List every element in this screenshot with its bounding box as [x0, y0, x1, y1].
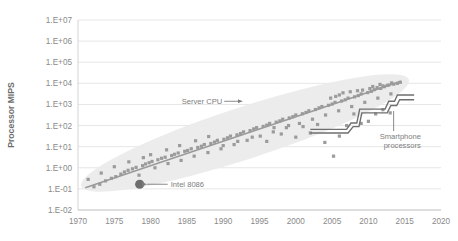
y-axis-tick-label: 1.E-01: [48, 185, 73, 194]
scatter-point: [287, 124, 290, 127]
scatter-point: [186, 149, 189, 152]
y-axis-title: Processor MIPS: [6, 82, 16, 148]
scatter-point: [350, 105, 353, 108]
intel-8086-highlight-dot: [135, 180, 144, 189]
scatter-point: [298, 122, 301, 125]
y-axis-tick-label: 1.E+06: [46, 37, 73, 46]
y-axis-tick-label: 1.E+07: [46, 16, 73, 25]
x-axis-tick-label: 1980: [141, 217, 160, 226]
x-axis-tick-labels: 1970197519801985199019952000200520102015…: [69, 217, 451, 226]
scatter-point: [301, 125, 304, 128]
scatter-point: [216, 139, 219, 142]
scatter-point: [251, 136, 254, 139]
scatter-point: [156, 158, 159, 161]
scatter-point: [178, 144, 181, 147]
processor-mips-chart: 1.E+071.E+061.E+051.E+041.E+031.E+021.E+…: [0, 0, 458, 241]
scatter-point: [131, 167, 134, 170]
scatter-point: [190, 147, 193, 150]
scatter-point: [338, 93, 341, 96]
scatter-point: [329, 97, 332, 100]
scatter-point: [207, 135, 210, 138]
scatter-point: [236, 140, 239, 143]
y-axis-tick-label: 1.E+03: [46, 100, 73, 109]
x-axis-tick-label: 1985: [178, 217, 197, 226]
scatter-point: [311, 118, 314, 121]
scatter-point: [259, 135, 262, 138]
chart-canvas: 1.E+071.E+061.E+051.E+041.E+031.E+021.E+…: [0, 0, 458, 241]
scatter-point: [338, 135, 341, 138]
x-axis-tick-label: 2020: [432, 217, 451, 226]
smartphone-label-line1: Smartphone: [380, 132, 421, 141]
scatter-point: [150, 160, 153, 163]
scatter-point: [272, 126, 275, 129]
scatter-point: [316, 123, 319, 126]
scatter-point: [144, 162, 147, 165]
scatter-point: [165, 148, 168, 151]
scatter-point: [376, 97, 379, 100]
scatter-point: [332, 155, 335, 158]
scatter-point: [126, 169, 129, 172]
scatter-point: [200, 145, 203, 148]
scatter-point: [368, 87, 371, 90]
y-axis-tick-label: 1.E+02: [46, 122, 73, 131]
scatter-point: [280, 132, 283, 135]
scatter-point: [334, 95, 337, 98]
y-axis-title-label: Processor MIPS: [6, 82, 16, 148]
scatter-point: [173, 153, 176, 156]
y-axis-tick-label: 1.E+05: [46, 58, 73, 67]
x-axis-tick-label: 1975: [105, 217, 124, 226]
scatter-point: [389, 92, 392, 95]
scatter-point: [134, 166, 137, 169]
scatter-point: [265, 140, 268, 143]
x-axis-tick-label: 1995: [250, 217, 269, 226]
scatter-point: [123, 170, 126, 173]
x-axis-tick-label: 2010: [359, 217, 378, 226]
scatter-point: [127, 160, 130, 163]
scatter-point: [206, 151, 209, 154]
scatter-point: [361, 88, 364, 91]
x-axis-tick-label: 2015: [396, 217, 415, 226]
smartphone-label-line2: processors: [384, 141, 421, 150]
scatter-point: [255, 126, 258, 129]
x-axis-tick-label: 1970: [69, 217, 88, 226]
scatter-point: [153, 166, 156, 169]
scatter-point: [177, 151, 180, 154]
scatter-point: [356, 89, 359, 92]
y-axis-tick-labels: 1.E+071.E+061.E+051.E+041.E+031.E+021.E+…: [46, 16, 73, 215]
scatter-point: [242, 130, 245, 133]
scatter-point: [363, 101, 366, 104]
y-axis-tick-label: 1.E-02: [48, 206, 73, 215]
scatter-point: [232, 143, 235, 146]
scatter-point: [149, 153, 152, 156]
y-axis-tick-label: 1.E+00: [46, 164, 73, 173]
scatter-point: [170, 154, 173, 157]
scatter-point: [219, 147, 222, 150]
scatter-point: [294, 136, 297, 139]
y-axis-tick-label: 1.E+01: [46, 143, 73, 152]
scatter-point: [341, 91, 344, 94]
intel-8086-label: Intel 8086: [171, 180, 204, 189]
scatter-point: [203, 143, 206, 146]
scatter-point: [337, 109, 340, 112]
scatter-point: [196, 146, 199, 149]
scatter-point: [378, 83, 381, 86]
scatter-point: [367, 120, 370, 123]
scatter-point: [229, 135, 232, 138]
x-axis-tick-label: 1990: [214, 217, 233, 226]
server-cpu-label: Server CPU: [182, 97, 223, 106]
x-axis-tick-label: 2000: [287, 217, 306, 226]
scatter-point: [113, 165, 116, 168]
scatter-point: [160, 157, 163, 160]
scatter-point: [222, 144, 225, 147]
x-axis-tick-label: 2005: [323, 217, 342, 226]
scatter-point: [324, 113, 327, 116]
scatter-point: [87, 178, 90, 181]
scatter-point: [100, 171, 103, 174]
scatter-point: [179, 159, 182, 162]
scatter-point: [194, 139, 197, 142]
scatter-point: [142, 156, 145, 159]
scatter-point: [137, 174, 140, 177]
scatter-point: [352, 112, 355, 115]
scatter-point: [141, 164, 144, 167]
scatter-point: [349, 90, 352, 93]
